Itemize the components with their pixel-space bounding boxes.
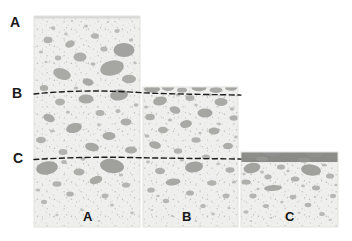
column-label-c: C	[285, 210, 294, 223]
column-label-a: A	[83, 210, 92, 223]
horizon-label-b: B	[12, 86, 22, 100]
column-label-b: B	[182, 210, 191, 223]
horizon-label-c: C	[13, 151, 23, 165]
column-b	[143, 85, 238, 227]
column-a	[34, 16, 140, 227]
core-columns-svg	[0, 0, 352, 241]
horizon-label-a: A	[10, 15, 20, 29]
core-log-figure	[0, 0, 352, 241]
